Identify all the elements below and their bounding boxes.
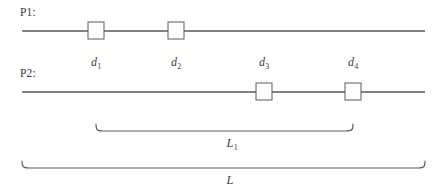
marker-d1	[88, 22, 104, 39]
brace-L1	[96, 124, 353, 131]
braces-group	[22, 124, 425, 168]
marker-d2	[168, 22, 184, 39]
marker-d3	[256, 83, 272, 100]
path-markers-group	[88, 22, 361, 100]
path-lines-group	[22, 31, 425, 92]
diagram-vector-layer	[0, 0, 445, 196]
brace-L	[22, 161, 425, 168]
marker-d4	[345, 83, 361, 100]
distance-diagram: P1: P2: d1 d2 d3 d4 L1 L	[0, 0, 445, 196]
